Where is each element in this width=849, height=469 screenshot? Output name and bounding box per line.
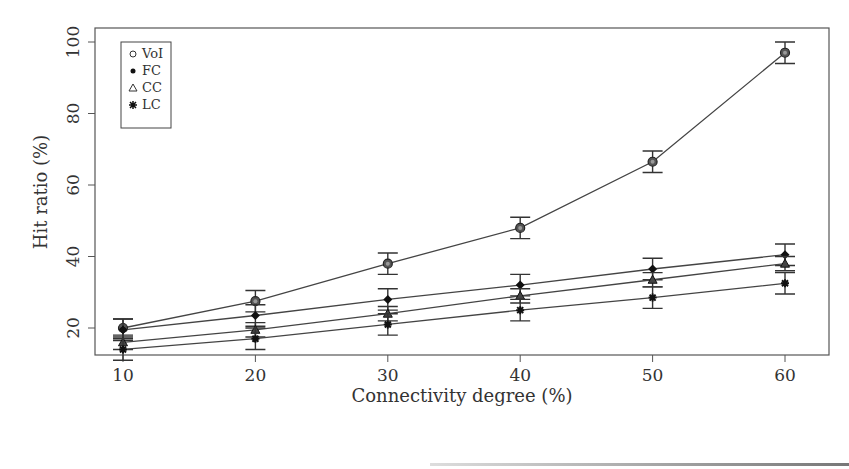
diamond-marker [383,295,392,304]
y-tick-label: 40 [63,246,83,268]
x-tick-label: 20 [245,365,267,385]
series-cc [113,257,795,350]
legend-label: FC [142,63,161,78]
x-tick-label: 50 [642,365,664,385]
circle-marker-core [651,160,655,164]
x-axis: 102030405060 [112,355,796,385]
series-lc [113,273,795,361]
series-line [123,255,785,330]
x-tick-label: 10 [112,365,134,385]
y-axis: 20406080100 [63,26,95,339]
footer-rule [430,463,849,466]
plot-frame [95,28,829,355]
y-tick-label: 60 [63,174,83,196]
series-layer [113,42,795,360]
y-tick-label: 100 [63,26,83,58]
circle-marker-core [386,262,390,266]
x-tick-label: 30 [377,365,399,385]
asterisk-marker [251,335,259,343]
legend-label: CC [142,80,162,95]
series-line [123,53,785,328]
asterisk-marker [781,279,789,287]
y-tick-label: 20 [63,317,83,339]
legend-label: LC [142,97,161,112]
x-axis-title: Connectivity degree (%) [351,385,572,406]
circle-marker-core [783,51,787,55]
asterisk-marker [649,294,657,302]
legend-asterisk-icon [129,101,137,109]
circle-marker-core [518,226,522,230]
legend-label: VoI [141,46,163,61]
hit-ratio-chart: 20406080100 102030405060 Connectivity de… [0,0,849,469]
y-axis-title: Hit ratio (%) [30,135,51,249]
circle-marker-core [253,299,257,303]
legend-diamond-icon [131,69,136,74]
y-tick-label: 80 [63,103,83,125]
x-tick-label: 60 [774,365,796,385]
triangle-marker [781,259,790,267]
asterisk-marker [119,345,127,353]
asterisk-marker [516,306,524,314]
series-line [123,283,785,349]
x-tick-label: 40 [509,365,531,385]
series-fc [113,244,795,341]
legend: VoIFCCCLC [121,42,171,128]
series-line [123,264,785,343]
asterisk-marker [384,320,392,328]
